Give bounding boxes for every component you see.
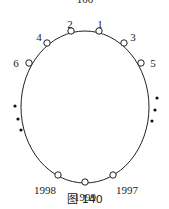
- node-label-5: 5: [150, 57, 156, 69]
- node-label-1998: 1998: [34, 184, 57, 196]
- dot: [16, 117, 19, 120]
- dot: [19, 128, 22, 131]
- node-5: [138, 60, 144, 66]
- dot: [150, 119, 153, 122]
- circle-outline: [21, 31, 149, 183]
- node-3: [121, 40, 127, 46]
- node-1997: [110, 172, 116, 178]
- node-label-4: 4: [36, 31, 42, 43]
- node-1998: [55, 172, 61, 178]
- dot: [153, 108, 156, 111]
- circle-diagram: 100 123456199719981999 图 140: [0, 0, 169, 209]
- top-cropped-label: 100: [77, 0, 94, 5]
- node-4: [44, 40, 50, 46]
- node-label-1: 1: [97, 18, 103, 30]
- figure-caption: 图 140: [67, 193, 103, 206]
- node-label-1997: 1997: [116, 184, 139, 196]
- node-label-2: 2: [67, 18, 73, 30]
- node-label-6: 6: [13, 57, 19, 69]
- dot: [13, 104, 16, 107]
- node-6: [26, 60, 32, 66]
- node-1999: [82, 179, 88, 185]
- dot: [155, 96, 158, 99]
- ellipsis-dots-right: [150, 96, 158, 122]
- node-label-3: 3: [130, 31, 136, 43]
